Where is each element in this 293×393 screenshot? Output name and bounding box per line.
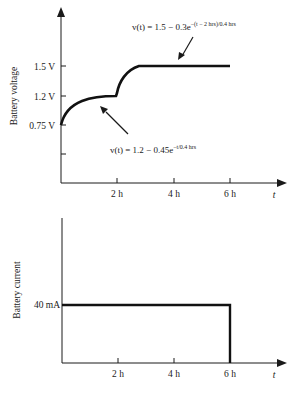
- xtick-label-4h: 4 h: [168, 189, 180, 199]
- current-x-axis-arrow-icon: [277, 359, 287, 367]
- voltage-y-axis-arrow-icon: [57, 7, 65, 17]
- battery-charging-figure: 1.5 V 1.2 V 0.75 V 2 h 4 h 6 h t Battery…: [0, 0, 293, 393]
- xtick-label-2h: 2 h: [112, 369, 124, 379]
- voltage-chart: 1.5 V 1.2 V 0.75 V 2 h 4 h 6 h t Battery…: [9, 7, 287, 200]
- xtick-label-6h: 6 h: [224, 189, 236, 199]
- annotation-arrow-1: [182, 37, 193, 56]
- y-axis-label-battery-voltage: Battery voltage: [9, 67, 19, 125]
- equation-charge-phase-1: v(t) = 1.2 − 0.45e−t/0.4 hrs: [110, 144, 197, 155]
- equation-charge-phase-2: v(t) = 1.5 − 0.3e−(t − 2 hrs)/0.4 hrs: [132, 21, 237, 32]
- voltage-x-axis-arrow-icon: [277, 179, 287, 187]
- xtick-label-4h: 4 h: [168, 369, 180, 379]
- xtick-label-6h: 6 h: [224, 369, 236, 379]
- x-axis-label-t: t: [273, 370, 276, 380]
- ytick-label-1.2v: 1.2 V: [34, 92, 55, 102]
- ytick-label-1.5v: 1.5 V: [34, 62, 55, 72]
- annotation-arrow-2: [106, 112, 128, 134]
- ytick-label-0.75v: 0.75 V: [29, 121, 55, 131]
- y-axis-label-battery-current: Battery current: [12, 261, 22, 319]
- voltage-curve: [61, 66, 230, 125]
- xtick-label-2h: 2 h: [111, 189, 123, 199]
- x-axis-label-t: t: [273, 190, 276, 200]
- ytick-label-40ma: 40 mA: [34, 300, 60, 310]
- current-chart: 2 h 4 h 6 h t 40 mA Battery current: [12, 218, 287, 380]
- current-step-line: [62, 305, 230, 363]
